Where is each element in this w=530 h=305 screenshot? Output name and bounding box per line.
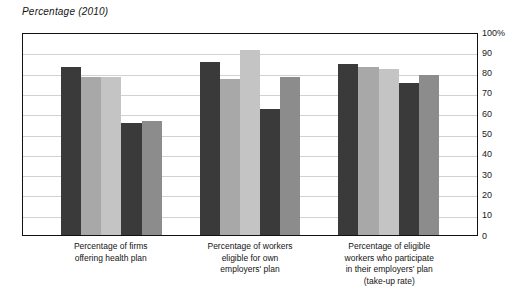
bar	[142, 121, 162, 235]
y-axis-tick-label: 90	[482, 49, 492, 58]
bar	[61, 67, 81, 235]
bar-group	[338, 34, 439, 235]
x-axis-label-line: (take-up rate)	[309, 276, 469, 288]
bar	[379, 69, 399, 235]
x-axis-category-label: Percentage of workerseligible for ownemp…	[170, 241, 330, 276]
x-axis-label-line: offering health plan	[31, 253, 191, 265]
x-axis-category-label: Percentage of firmsoffering health plan	[31, 241, 191, 264]
x-axis-label-line: Percentage of firms	[31, 241, 191, 253]
y-axis-tick-label: 10	[482, 211, 492, 220]
bar	[121, 123, 141, 235]
group-spacer	[162, 34, 200, 235]
bar	[240, 50, 260, 235]
y-axis-tick-label: 70	[482, 89, 492, 98]
y-axis: 100%9080706050403020100	[482, 33, 528, 236]
group-spacer	[23, 34, 61, 235]
y-axis-tick-label: 80	[482, 69, 492, 78]
y-axis-tick-label: 100%	[482, 29, 505, 38]
y-axis-tick-label: 60	[482, 110, 492, 119]
bars-layer	[23, 34, 477, 235]
bar	[220, 79, 240, 235]
bar	[260, 109, 280, 235]
x-axis-label-line: Percentage of workers	[170, 241, 330, 253]
chart-title: Percentage (2010)	[22, 6, 108, 17]
y-axis-tick-label: 50	[482, 130, 492, 139]
bar	[358, 67, 378, 235]
y-axis-tick-label: 0	[482, 232, 487, 241]
bar	[101, 77, 121, 235]
x-axis-label-line: employers' plan	[170, 264, 330, 276]
x-axis-label-line: Percentage of eligible	[309, 241, 469, 253]
y-axis-tick-label: 20	[482, 191, 492, 200]
group-spacer	[439, 34, 477, 235]
y-axis-tick-label: 30	[482, 171, 492, 180]
bar-group	[200, 34, 301, 235]
bar	[419, 75, 439, 235]
x-axis-label-line: workers who participate	[309, 253, 469, 265]
bar	[280, 77, 300, 235]
group-spacer	[300, 34, 338, 235]
y-axis-tick-label: 40	[482, 150, 492, 159]
x-axis-label-line: eligible for own	[170, 253, 330, 265]
chart-page: Percentage (2010) 100%908070605040302010…	[0, 0, 530, 305]
x-axis-labels: Percentage of firmsoffering health planP…	[22, 241, 478, 303]
x-axis-label-line: in their employers' plan	[309, 264, 469, 276]
bar	[399, 83, 419, 235]
bar-group	[61, 34, 162, 235]
plot-area	[22, 33, 478, 236]
x-axis-category-label: Percentage of eligibleworkers who partic…	[309, 241, 469, 287]
bar	[200, 62, 220, 235]
bar	[81, 77, 101, 235]
bar	[338, 64, 358, 235]
